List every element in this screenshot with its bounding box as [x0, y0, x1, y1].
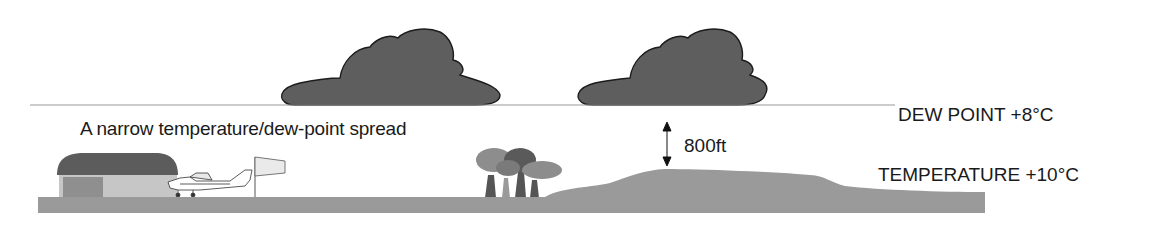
- dew-point-label: DEW POINT +8°C: [898, 104, 1054, 126]
- diagram-caption: A narrow temperature/dew-point spread: [80, 118, 406, 140]
- double-arrow-icon: [663, 122, 671, 166]
- windsock: [255, 157, 285, 198]
- cloud-left: [282, 29, 500, 105]
- trees: [476, 148, 562, 198]
- hangar: [57, 153, 178, 198]
- temperature-label: TEMPERATURE +10°C: [878, 164, 1079, 186]
- cloud-base-gap-label: 800ft: [684, 135, 726, 157]
- light-aircraft: [168, 170, 252, 197]
- cloud-right: [578, 29, 767, 105]
